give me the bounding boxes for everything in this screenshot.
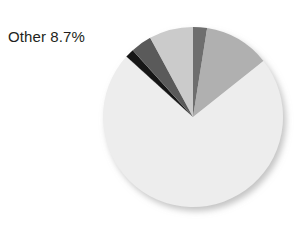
pie-slices-group [103, 27, 283, 207]
pie-chart-figure: Other 8.7% [0, 0, 302, 239]
slice-label-other: Other 8.7% [8, 28, 85, 46]
